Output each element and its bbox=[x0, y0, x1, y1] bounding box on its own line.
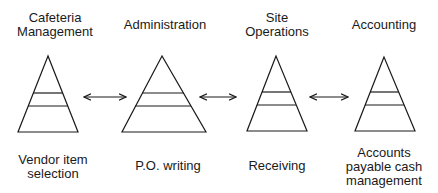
pyramid-cafeteria-management bbox=[18, 56, 78, 132]
top-label-accounting: Accounting bbox=[330, 18, 438, 32]
bottom-label-accounts-payable: Accounts payable cash management bbox=[330, 146, 438, 188]
bottom-label-vendor-item-selection: Vendor item selection bbox=[0, 153, 106, 181]
pyramid-administration bbox=[122, 56, 206, 132]
pyramid-site-operations bbox=[247, 56, 307, 131]
top-label-administration: Administration bbox=[110, 18, 220, 32]
top-label-site-operations: Site Operations bbox=[222, 11, 332, 39]
bottom-label-po-writing: P.O. writing bbox=[113, 159, 223, 173]
bottom-label-receiving: Receiving bbox=[222, 159, 332, 173]
top-label-cafeteria-management: Cafeteria Management bbox=[0, 11, 110, 39]
pyramid-accounting bbox=[355, 57, 415, 131]
